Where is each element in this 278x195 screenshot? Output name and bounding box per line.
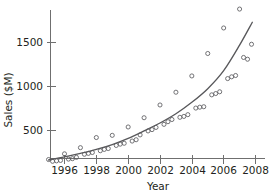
data-point (218, 90, 222, 94)
data-point (78, 146, 82, 150)
y-axis-title: Sales ($M) (2, 72, 14, 127)
data-point (130, 139, 134, 143)
data-point (170, 117, 174, 121)
data-point (230, 75, 234, 79)
x-tick-label-2004: 2004 (179, 164, 206, 176)
data-point (118, 142, 122, 146)
data-point (178, 115, 182, 119)
data-point (98, 149, 102, 153)
x-tick-label-2000: 2000 (115, 164, 142, 176)
y-tick-label-1500: 1500 (16, 36, 43, 48)
data-point (114, 143, 118, 147)
data-point (150, 128, 154, 132)
data-point (94, 135, 98, 139)
y-axis-group: 1500 1000 500 Sales ($M) (2, 10, 56, 158)
data-point (122, 141, 126, 145)
data-point (194, 106, 198, 110)
data-point (134, 138, 138, 142)
data-point (242, 55, 246, 59)
data-point (166, 120, 170, 124)
data-point (249, 42, 253, 46)
data-point (238, 7, 242, 11)
data-point (174, 90, 178, 94)
y-axis-tick-labels: 1500 1000 500 (16, 36, 43, 136)
data-point (102, 147, 106, 151)
data-point (202, 105, 206, 109)
x-axis-group: 1996 1998 2000 2002 2004 2006 2008 Year (50, 155, 269, 193)
data-point (222, 26, 226, 30)
data-point (245, 57, 249, 61)
data-point (142, 116, 146, 120)
x-tick-label-2002: 2002 (147, 164, 174, 176)
data-point (126, 125, 130, 129)
x-tick-label-2008: 2008 (242, 164, 269, 176)
chart-figure: 1500 1000 500 Sales ($M) 1996 1998 2000 (0, 0, 278, 195)
data-point (106, 146, 110, 150)
data-point (154, 125, 158, 129)
data-point (190, 74, 194, 78)
x-axis-tick-labels: 1996 1998 2000 2002 2004 2006 2008 (51, 164, 269, 176)
data-point (198, 105, 202, 109)
data-point (206, 51, 210, 55)
x-tick-label-1996: 1996 (51, 164, 78, 176)
data-point (226, 77, 230, 81)
data-point (66, 157, 70, 161)
data-point (110, 133, 114, 137)
data-points-layer (47, 7, 254, 163)
x-tick-label-1998: 1998 (83, 164, 110, 176)
data-point (162, 122, 166, 126)
data-point (158, 103, 162, 107)
x-axis-title: Year (146, 180, 170, 192)
data-point (234, 73, 238, 77)
y-tick-label-1000: 1000 (16, 80, 43, 92)
data-point (182, 114, 186, 118)
data-point (54, 159, 58, 163)
data-point (214, 91, 218, 95)
x-tick-label-2006: 2006 (210, 164, 237, 176)
data-point (186, 113, 190, 117)
y-tick-label-500: 500 (23, 124, 43, 136)
data-point (210, 93, 214, 97)
scatter-plot-canvas: 1500 1000 500 Sales ($M) 1996 1998 2000 (0, 0, 278, 195)
